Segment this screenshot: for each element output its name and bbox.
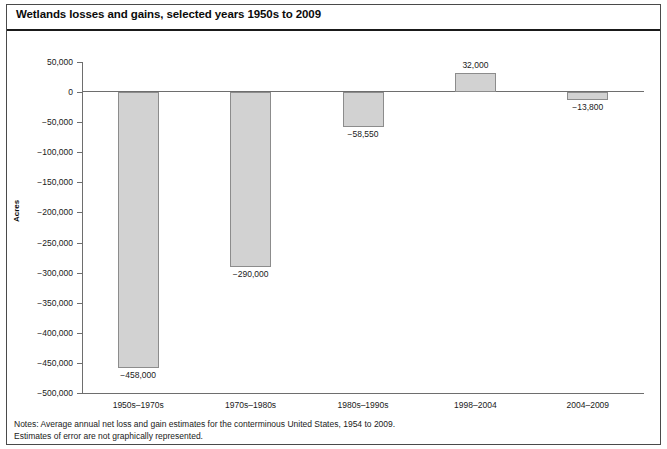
y-tick-label: −200,000	[5, 207, 73, 217]
y-tick-label: −450,000	[5, 358, 73, 368]
y-tick-label: −400,000	[5, 328, 73, 338]
y-tick-mark	[77, 273, 82, 274]
y-tick-mark	[77, 333, 82, 334]
bar-value-label: −458,000	[120, 370, 156, 380]
y-tick-label: 50,000	[5, 57, 73, 67]
y-tick-label: −150,000	[5, 177, 73, 187]
bar-value-label: 32,000	[462, 60, 488, 70]
notes-line-1: Notes: Average annual net loss and gain …	[14, 419, 395, 431]
y-tick-label: −250,000	[5, 238, 73, 248]
bar-value-label: −13,800	[572, 102, 603, 112]
bar-value-label: −58,550	[348, 129, 379, 139]
y-tick-mark	[77, 393, 82, 394]
y-tick-label: −50,000	[5, 117, 73, 127]
y-axis-line	[82, 62, 83, 394]
y-tick-mark	[77, 303, 82, 304]
y-tick-mark	[77, 122, 82, 123]
figure-notes: Notes: Average annual net loss and gain …	[14, 419, 395, 442]
y-tick-mark	[77, 152, 82, 153]
bar	[455, 73, 496, 92]
x-category-label: 1970s–1980s	[225, 400, 276, 410]
y-tick-label: −300,000	[5, 268, 73, 278]
bar	[230, 92, 271, 267]
y-tick-mark	[77, 62, 82, 63]
x-category-label: 1998–2004	[454, 400, 497, 410]
x-axis-line	[82, 393, 644, 394]
notes-line-2: Estimates of error are not graphically r…	[14, 431, 395, 443]
bar	[118, 92, 159, 368]
x-category-label: 1980s–1990s	[337, 400, 388, 410]
x-category-label: 1950s–1970s	[113, 400, 164, 410]
y-axis-labels: 50,0000−50,000−100,000−150,000−200,000−2…	[0, 0, 73, 449]
y-tick-label: −100,000	[5, 147, 73, 157]
y-tick-label: −500,000	[5, 388, 73, 398]
x-category-label: 2004–2009	[567, 400, 610, 410]
y-tick-label: 0	[5, 87, 73, 97]
bar	[567, 92, 608, 100]
chart-figure: Wetlands losses and gains, selected year…	[0, 0, 667, 449]
y-tick-mark	[77, 363, 82, 364]
bar-value-label: −290,000	[233, 269, 269, 279]
y-tick-mark	[77, 182, 82, 183]
bar	[343, 92, 384, 127]
y-tick-mark	[77, 212, 82, 213]
y-tick-mark	[77, 92, 82, 93]
y-tick-mark	[77, 243, 82, 244]
figure-frame	[6, 4, 661, 445]
y-tick-label: −350,000	[5, 298, 73, 308]
